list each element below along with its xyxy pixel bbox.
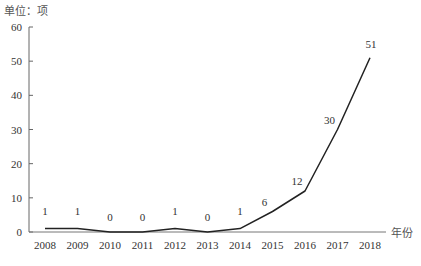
x-tick-label: 2013 bbox=[197, 239, 220, 251]
x-tick-label: 2008 bbox=[34, 239, 57, 251]
data-labels: 11001016123051 bbox=[42, 38, 376, 223]
data-label: 1 bbox=[172, 205, 178, 217]
y-tick-label: 30 bbox=[11, 124, 23, 136]
data-label: 0 bbox=[205, 211, 211, 223]
x-tick-label: 2016 bbox=[294, 239, 317, 251]
data-label: 1 bbox=[75, 205, 81, 217]
data-label: 30 bbox=[324, 114, 336, 126]
y-tick-label: 20 bbox=[11, 158, 23, 170]
data-label: 1 bbox=[237, 205, 243, 217]
x-tick-label: 2010 bbox=[99, 239, 122, 251]
x-tick-label: 2018 bbox=[359, 239, 382, 251]
data-label: 0 bbox=[107, 211, 113, 223]
data-label: 51 bbox=[366, 38, 377, 50]
data-label: 0 bbox=[140, 211, 146, 223]
y-tick-label: 40 bbox=[11, 89, 23, 101]
y-tick-label: 0 bbox=[17, 226, 23, 238]
data-label: 1 bbox=[42, 205, 48, 217]
y-tick-label: 60 bbox=[11, 21, 23, 33]
x-tick-label: 2017 bbox=[327, 239, 350, 251]
y-tick-label: 50 bbox=[11, 55, 23, 67]
x-tick-label: 2011 bbox=[132, 239, 154, 251]
line-chart: 0102030405060 20082009201020112012201320… bbox=[0, 0, 421, 266]
series-line bbox=[45, 58, 370, 232]
data-label: 12 bbox=[292, 175, 303, 187]
x-axis: 2008200920102011201220132014201520162017… bbox=[29, 232, 386, 251]
data-label: 6 bbox=[262, 196, 268, 208]
y-tick-label: 10 bbox=[11, 192, 23, 204]
x-tick-label: 2014 bbox=[229, 239, 252, 251]
x-tick-label: 2012 bbox=[164, 239, 186, 251]
y-axis: 0102030405060 bbox=[11, 21, 33, 238]
x-tick-label: 2015 bbox=[262, 239, 285, 251]
x-tick-label: 2009 bbox=[67, 239, 90, 251]
